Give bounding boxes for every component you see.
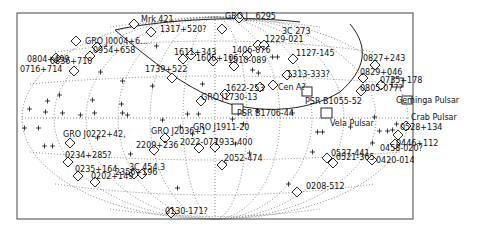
label-1229: 1229-021	[265, 35, 304, 44]
label-3c454: 3C 454.3	[129, 163, 165, 172]
label-2022: 2022-077	[180, 138, 219, 147]
label-0716: 0716+714	[20, 65, 62, 74]
label-0234: 0234+285?	[65, 151, 112, 160]
label-gro0222: GRO J0222+42,	[63, 130, 126, 139]
label-6295: GRO J...6295	[225, 12, 276, 21]
label-1622: 1622-253	[226, 84, 265, 93]
label-cena: Cen A?	[278, 83, 306, 92]
label-geminga: Geminga Pulsar	[396, 96, 460, 105]
sky-map: Mrk 421 1317+520? GRO J...6295 3C 273 12…	[0, 0, 477, 230]
label-1127: 1127-145	[296, 49, 335, 58]
label-0420: 0420-014	[376, 156, 415, 165]
label-psr1055: PSR B1055-52	[305, 97, 362, 106]
label-crab: Crab Pulsar	[411, 113, 457, 122]
label-1933: 1933-400	[214, 138, 253, 147]
label-0827: 0827+243	[363, 54, 405, 63]
label-0521: 0521-365	[336, 153, 375, 162]
label-2052: 2052-474	[224, 154, 263, 163]
label-1313: 1313-333?	[287, 70, 330, 79]
label-psr1706: PSR B1706-44	[237, 109, 294, 118]
label-2209: 2209+236	[136, 141, 178, 150]
label-1510: 1510-089	[228, 56, 267, 65]
label-mrk421: Mrk 421	[141, 15, 174, 24]
label-0208: 0208-512	[306, 182, 345, 191]
label-gro1911: GRO J1911-20	[193, 123, 249, 132]
label-1317: 1317+520?	[160, 25, 207, 34]
label-gro0004: GRO J0004+6...	[85, 37, 148, 46]
label-0954: 0954+658	[93, 46, 135, 55]
label-0130: 0130-171?	[165, 207, 208, 216]
label-gro1730: GRO J1730-13	[201, 93, 257, 102]
label-1739: 1739+522	[145, 65, 187, 74]
vela-box	[321, 108, 332, 118]
label-0528: 0528+134	[400, 123, 442, 132]
label-vela: Vela Pulsar	[330, 119, 374, 128]
label-0458: 0458-020?	[380, 144, 423, 153]
label-0805: 0805-077?	[360, 84, 403, 93]
